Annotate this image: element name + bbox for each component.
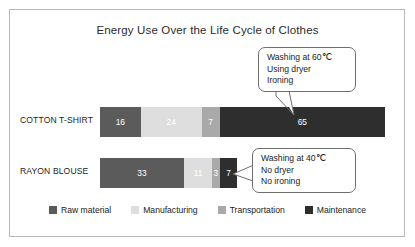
callout-line-3: Ironing — [267, 75, 348, 87]
bar-segment-transportation[interactable]: 3 — [212, 158, 220, 188]
bar-segment-manufacturing[interactable]: 24 — [141, 107, 202, 137]
legend-label: Transportation — [230, 205, 285, 215]
bar-segment-raw-material[interactable]: 33 — [100, 158, 184, 188]
legend-label: Maintenance — [317, 205, 366, 215]
callout-line-2: Using dryer — [267, 64, 348, 76]
legend-label: Raw material — [61, 205, 111, 215]
chart-figure: Energy Use Over the Life Cycle of Clothe… — [0, 0, 415, 247]
legend-swatch-icon — [305, 206, 313, 214]
legend-swatch-icon — [218, 206, 226, 214]
bar-segment-maintenance[interactable]: 7 — [220, 158, 238, 188]
legend-swatch-icon — [49, 206, 57, 214]
bar-segment-raw-material[interactable]: 16 — [100, 107, 141, 137]
bar-segment-maintenance[interactable]: 65 — [220, 107, 385, 137]
stacked-bar-rayon-blouse: 33 11 3 7 — [100, 158, 237, 188]
bar-segment-value: 11 — [194, 168, 203, 178]
legend-swatch-icon — [131, 206, 139, 214]
bar-segment-value: 3 — [213, 168, 218, 178]
bar-segment-value: 16 — [116, 117, 125, 127]
bar-segment-value: 24 — [167, 117, 176, 127]
bar-row-cotton-tshirt: COTTON T-SHIRT 16 24 7 65 — [0, 107, 415, 137]
bar-segment-transportation[interactable]: 7 — [202, 107, 220, 137]
stacked-bar-cotton-tshirt: 16 24 7 65 — [100, 107, 385, 137]
legend-label: Manufacturing — [143, 205, 197, 215]
callout-line-1: Washing at 60℃ — [267, 52, 348, 64]
bar-segment-value: 7 — [226, 168, 231, 178]
callout-line-2: No dryer — [261, 165, 348, 177]
chart-legend: Raw material Manufacturing Transportatio… — [0, 205, 415, 215]
chart-title: Energy Use Over the Life Cycle of Clothe… — [0, 24, 415, 36]
legend-item-manufacturing[interactable]: Manufacturing — [131, 205, 197, 215]
bar-segment-manufacturing[interactable]: 11 — [184, 158, 212, 188]
legend-item-maintenance[interactable]: Maintenance — [305, 205, 366, 215]
bar-segment-value: 65 — [298, 117, 307, 127]
bar-segment-value: 33 — [137, 168, 146, 178]
callout-line-3: No ironing — [261, 176, 348, 188]
bar-segment-value: 7 — [208, 117, 213, 127]
callout-line-1: Washing at 40℃ — [261, 153, 348, 165]
legend-item-transportation[interactable]: Transportation — [218, 205, 285, 215]
callout-rayon-blouse[interactable]: Washing at 40℃ No dryer No ironing — [252, 148, 356, 193]
callout-cotton-tshirt[interactable]: Washing at 60℃ Using dryer Ironing — [258, 47, 356, 92]
legend-item-raw-material[interactable]: Raw material — [49, 205, 111, 215]
